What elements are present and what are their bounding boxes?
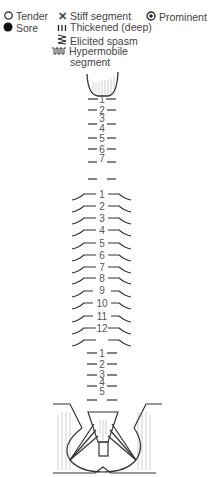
l1-label: 1 xyxy=(99,348,105,359)
t9-label: 9 xyxy=(99,285,105,296)
c7-label: 7 xyxy=(99,153,105,164)
t5-label: 5 xyxy=(99,238,105,249)
t12-label: 12 xyxy=(96,323,108,334)
skull-base xyxy=(87,72,118,96)
t10-label: 10 xyxy=(96,298,108,309)
lumbar-labels: 1 2 3 4 5 xyxy=(99,348,105,397)
t8-label: 8 xyxy=(99,273,105,284)
pelvis xyxy=(53,404,162,473)
t2-label: 2 xyxy=(99,201,105,212)
l5-label: 5 xyxy=(99,386,105,397)
spine-diagram: 1 2 3 4 5 6 7 1 2 3 4 5 6 7 8 9 10 11 12 xyxy=(0,0,224,477)
t6-label: 6 xyxy=(99,250,105,261)
t7-label: 7 xyxy=(99,262,105,273)
c5-label: 5 xyxy=(99,133,105,144)
cervical-labels: 1 2 3 4 5 6 7 xyxy=(99,94,105,164)
t1-label: 1 xyxy=(99,189,105,200)
t4-label: 4 xyxy=(99,225,105,236)
thoracic-labels: 1 2 3 4 5 6 7 8 9 10 11 12 xyxy=(96,189,108,334)
t3-label: 3 xyxy=(99,213,105,224)
t11-label: 11 xyxy=(97,311,108,322)
c1-label: 1 xyxy=(99,94,105,105)
